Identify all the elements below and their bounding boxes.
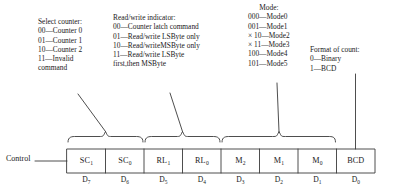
brace-mode: [222, 132, 336, 143]
leader-read-write: [170, 93, 183, 132]
cell-sc0-base: SC: [118, 156, 128, 165]
bit-d7: D7: [67, 176, 106, 184]
bit-d5: D5: [144, 176, 183, 184]
cell-m1: M1: [260, 149, 299, 173]
cell-m0-base: M: [312, 156, 319, 165]
bit-d1: D1: [298, 176, 337, 184]
control-word-cells: SC1 SC0 RL1 RL0 M2 M1 M0 BCD: [67, 149, 375, 173]
control-label: Control: [6, 155, 30, 163]
cell-m2-base: M: [235, 156, 242, 165]
cell-sc1: SC1: [67, 149, 106, 173]
cell-m0-sub: 0: [320, 160, 323, 166]
cell-rl0-sub: 0: [206, 160, 209, 166]
cell-m2-sub: 2: [243, 160, 246, 166]
bit-d0: D0: [337, 176, 376, 184]
bit-d5-base: D: [159, 175, 164, 184]
cell-rl1-base: RL: [157, 156, 167, 165]
brace-read-write: [145, 132, 220, 143]
cell-sc1-base: SC: [80, 156, 90, 165]
bit-d7-base: D: [82, 175, 87, 184]
bit-d3-base: D: [236, 175, 241, 184]
bit-d6-sub: 6: [126, 179, 129, 185]
cell-sc1-sub: 1: [90, 160, 93, 166]
data-bit-labels: D7 D6 D5 D4 D3 D2 D1 D0: [67, 176, 375, 184]
bit-d2: D2: [260, 176, 299, 184]
bit-d1-base: D: [313, 175, 318, 184]
bit-d7-sub: 7: [88, 179, 91, 185]
bit-d5-sub: 5: [165, 179, 168, 185]
bit-d4-sub: 4: [203, 179, 206, 185]
bit-d4: D4: [183, 176, 222, 184]
cell-rl0: RL0: [183, 149, 222, 173]
cell-m1-sub: 1: [281, 160, 284, 166]
leader-select-counter: [78, 94, 106, 132]
cell-m1-base: M: [274, 156, 281, 165]
cell-m0: M0: [298, 149, 337, 173]
bit-d6: D6: [106, 176, 145, 184]
cell-sc0: SC0: [106, 149, 145, 173]
bit-d3-sub: 3: [242, 179, 245, 185]
cell-m2: M2: [221, 149, 260, 173]
bit-d0-sub: 0: [357, 179, 360, 185]
cell-rl1-sub: 1: [167, 160, 170, 166]
control-word-diagram: Select counter: 00—Counter 0 01—Counter …: [0, 0, 395, 196]
bit-d3: D3: [221, 176, 260, 184]
cell-bcd: BCD: [337, 149, 376, 173]
cell-bcd-base: BCD: [347, 156, 364, 165]
leader-mode: [277, 83, 279, 132]
bit-d1-sub: 1: [319, 179, 322, 185]
cell-rl0-base: RL: [195, 156, 205, 165]
cell-sc0-sub: 0: [129, 160, 132, 166]
brace-select-counter: [68, 132, 143, 143]
bit-d2-sub: 2: [280, 179, 283, 185]
cell-rl1: RL1: [144, 149, 183, 173]
